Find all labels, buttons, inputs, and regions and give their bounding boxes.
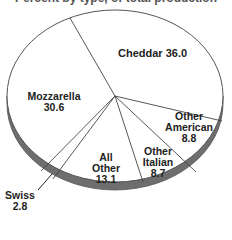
- label-cheddar: Cheddar 36.0: [118, 48, 187, 59]
- label-mozzarella: Mozzarella 30.6: [26, 91, 82, 113]
- label-other-italian: Other Italian 8.7: [138, 146, 178, 179]
- label-swiss: Swiss 2.8: [4, 190, 36, 212]
- swiss-leader-line: [38, 174, 52, 190]
- label-other-american: Other American 8.8: [161, 111, 217, 144]
- label-all-other: All Other 13.1: [86, 152, 126, 185]
